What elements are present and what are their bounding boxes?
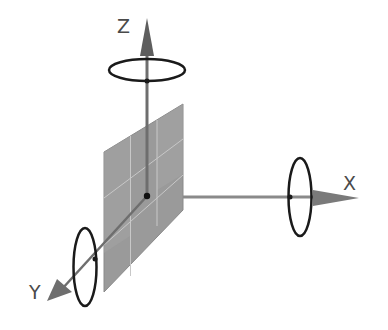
y-rotation-ring-icon [74, 228, 97, 306]
axes-diagram: Z X Y [0, 0, 388, 330]
x-axis [183, 190, 359, 206]
z-axis-label: Z [117, 15, 130, 37]
origin-dot [144, 193, 150, 199]
y-axis-label: Y [28, 281, 41, 303]
x-axis-label: X [343, 172, 356, 194]
